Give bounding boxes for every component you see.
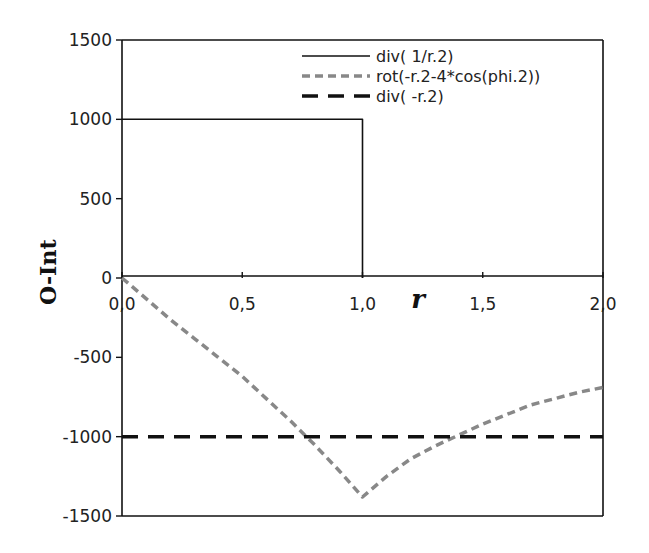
x-tick-label: 1,0 [349, 294, 376, 314]
chart: 150010005000-500-1000-1500 0,00,51,01,52… [0, 0, 649, 553]
legend-label-3: div( -r.2) [376, 87, 444, 106]
y-axis-title: O-Int [35, 239, 61, 305]
series-line-1 [122, 119, 363, 278]
x-tick-label: 0,5 [229, 294, 256, 314]
x-tick-labels: 0,00,51,01,52,0 [108, 272, 616, 314]
legend-label-2: rot(-r.2-4*cos(phi.2)) [376, 67, 540, 86]
legend-label-1: div( 1/r.2) [376, 47, 454, 66]
x-tick-label: 2,0 [589, 294, 616, 314]
y-tick-labels: 150010005000-500-1000-1500 [63, 30, 603, 526]
y-tick-label: -1000 [63, 427, 112, 447]
x-tick-label: 1,5 [469, 294, 496, 314]
y-tick-label: -500 [73, 347, 112, 367]
x-tick-label: 0,0 [108, 294, 135, 314]
y-tick-label: 0 [101, 268, 112, 288]
x-axis-title: r [411, 284, 427, 314]
y-tick-label: 500 [80, 189, 112, 209]
y-tick-label: 1000 [69, 109, 112, 129]
y-tick-label: -1500 [63, 506, 112, 526]
y-tick-label: 1500 [69, 30, 112, 50]
legend: div( 1/r.2)rot(-r.2-4*cos(phi.2))div( -r… [302, 47, 540, 106]
